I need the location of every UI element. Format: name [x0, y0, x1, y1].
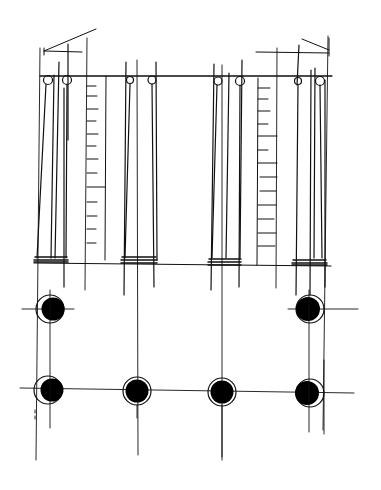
- plan-row-front: [22, 295, 358, 323]
- pediment-left: [44, 29, 96, 55]
- right-door-panel: [257, 78, 277, 265]
- plan-axes: [35, 290, 324, 457]
- column-plan-icon: [211, 381, 234, 404]
- volute-icon: [148, 76, 156, 84]
- column-2-elevation: [121, 62, 157, 295]
- column-plan-icon: [126, 380, 149, 403]
- column-plan-icon: [296, 297, 320, 321]
- guide-lines: [36, 36, 328, 460]
- plan-row-back: [20, 376, 354, 407]
- volute-icon: [236, 77, 245, 86]
- volute-icon: [214, 77, 222, 85]
- volute-icon: [295, 78, 302, 85]
- volute-icon: [316, 77, 325, 86]
- volute-icon: [127, 77, 134, 84]
- column-4-elevation: [292, 45, 327, 295]
- volute-icon: [44, 76, 53, 85]
- pediment-right: [256, 38, 329, 56]
- column-3-elevation: [208, 60, 245, 290]
- volute-icon: [63, 76, 72, 85]
- column-plan-icon: [295, 381, 319, 405]
- left-door-panel: [87, 76, 106, 260]
- architectural-sketch: [0, 0, 381, 490]
- column-plan-icon: [42, 298, 65, 321]
- stylobate-line: [34, 263, 331, 266]
- column-plan-icon: [41, 379, 64, 402]
